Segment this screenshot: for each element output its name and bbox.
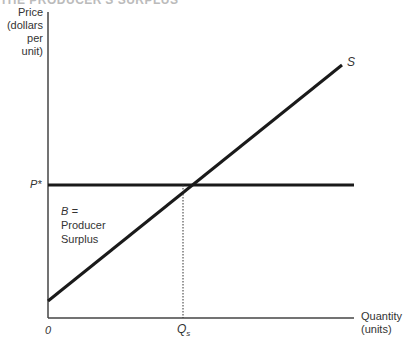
quantity-level-label: Qs [177, 323, 190, 340]
y-axis-label-line: Price [4, 6, 43, 19]
price-level-label: P* [30, 178, 42, 191]
y-axis-label-line: per unit) [4, 32, 43, 58]
producer-surplus-label: B = Producer Surplus [61, 204, 106, 246]
x-axis-label-line: (units) [361, 323, 402, 336]
y-axis-label-line: (dollars [4, 19, 43, 32]
x-axis-label-line: Quantity [361, 310, 402, 323]
area-label-line: B = [61, 204, 106, 218]
supply-curve-label: S [347, 56, 355, 69]
quantity-level-subscript: s [186, 329, 190, 338]
origin-label: 0 [45, 324, 51, 337]
area-label-line: Surplus [61, 232, 106, 246]
y-axis-label: Price (dollars per unit) [4, 6, 43, 58]
x-axis-label: Quantity (units) [361, 310, 402, 336]
area-label-line: Producer [61, 218, 106, 232]
producer-surplus-diagram [0, 0, 409, 341]
quantity-level-letter: Q [177, 322, 186, 336]
supply-curve [48, 65, 342, 301]
